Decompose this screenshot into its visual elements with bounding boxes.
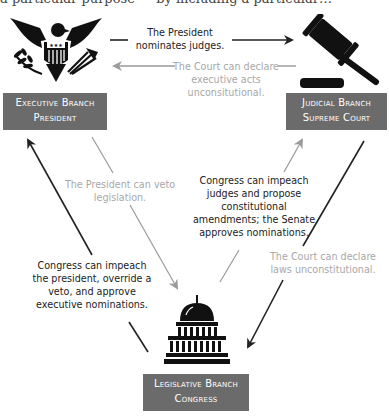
- label-line: veto, and approve: [30, 285, 154, 298]
- label-line: constitutional: [190, 200, 318, 213]
- label-judicial-to-exec: The Court can declare executive acts unc…: [170, 60, 282, 99]
- label-line: Congress can impeach: [190, 174, 318, 187]
- judicial-branch-title: Judicial Branch: [286, 95, 387, 110]
- label-legislative-to-judicial: Congress can impeach judges and propose …: [190, 174, 318, 239]
- executive-branch-box: Executive Branch President: [3, 93, 107, 130]
- label-line: nominates judges.: [128, 39, 232, 52]
- label-line: The Court can declare: [170, 60, 282, 73]
- label-line: legislation.: [60, 191, 180, 204]
- label-line: Congress can impeach: [30, 259, 154, 272]
- label-line: amendments; the Senate: [190, 213, 318, 226]
- arrow-judicial-to-legislative: [248, 141, 364, 347]
- label-line: The Court can declare: [268, 250, 378, 263]
- legislative-branch-subtitle: Congress: [143, 391, 249, 406]
- label-judicial-to-legislative: The Court can declare laws unconstitutio…: [268, 250, 378, 276]
- legislative-branch-title: Legislative Branch: [143, 376, 249, 391]
- label-line: unconsitutional.: [170, 86, 282, 99]
- judicial-branch-box: Judicial Branch Supreme Court: [286, 93, 387, 130]
- label-line: approves nominations.: [190, 226, 318, 239]
- executive-branch-title: Executive Branch: [3, 95, 107, 110]
- label-line: the president, override a: [30, 272, 154, 285]
- svg-text:★★★: ★★★: [49, 42, 63, 48]
- arrow-legislative-to-exec: [28, 140, 148, 352]
- gavel-icon: [296, 14, 382, 90]
- label-line: executive acts: [170, 73, 282, 86]
- label-line: The President: [128, 26, 232, 39]
- label-line: The President can veto: [60, 178, 180, 191]
- eagle-seal-icon: ★★★: [6, 12, 106, 88]
- judicial-branch-subtitle: Supreme Court: [286, 110, 387, 125]
- label-line: executive nominations.: [30, 298, 154, 311]
- label-exec-to-judicial: The President nominates judges.: [128, 26, 232, 52]
- label-line: laws unconstitutional.: [268, 263, 378, 276]
- executive-branch-subtitle: President: [3, 110, 107, 125]
- label-exec-to-legislative: The President can veto legislation.: [60, 178, 180, 204]
- capitol-icon: [164, 295, 230, 365]
- label-line: judges and propose: [190, 187, 318, 200]
- label-legislative-to-exec: Congress can impeach the president, over…: [30, 259, 154, 311]
- legislative-branch-box: Legislative Branch Congress: [143, 374, 249, 411]
